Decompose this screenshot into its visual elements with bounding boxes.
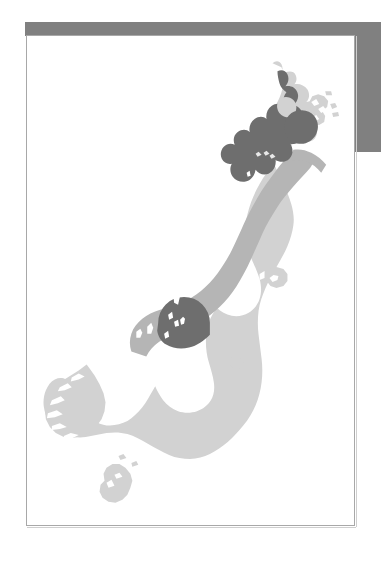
figure-card: [26, 35, 355, 526]
map-feature-banks-peninsula: [266, 267, 288, 288]
south-island-map: [27, 36, 354, 525]
header-banner-right: [355, 22, 381, 152]
header-banner-top: [25, 22, 381, 36]
card-shadow-bottom: [27, 527, 356, 528]
figure-stage: [0, 0, 381, 563]
map-region-stewart-island: [100, 454, 139, 503]
card-shadow-right: [356, 36, 357, 527]
